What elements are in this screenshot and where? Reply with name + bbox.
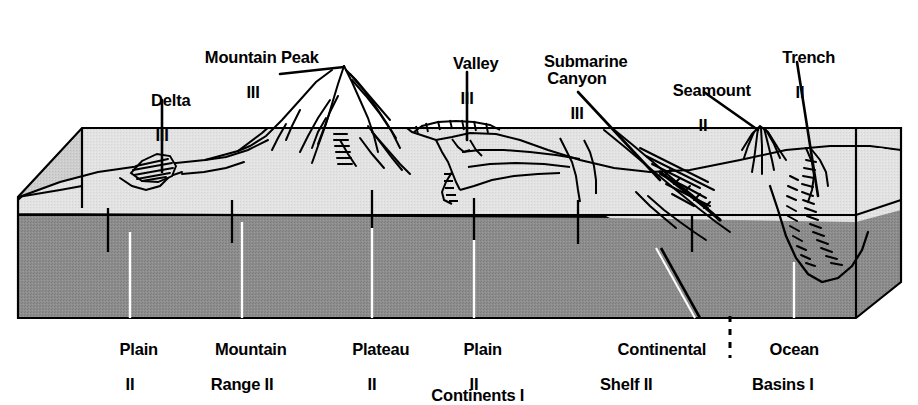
label-delta: Delta III [134,74,191,179]
label-valley-numeral: III [435,90,498,108]
label-plateau-line2: II [335,376,410,394]
label-plain-left: Plain II [102,323,158,405]
label-ocean-basins: Ocean Basins I [752,323,819,405]
label-mountain-peak-text: Mountain Peak [205,48,319,66]
label-plain-left-line1: Plain [120,340,158,358]
label-trench: Trench II [765,31,835,136]
label-mountain-peak: Mountain Peak III [187,31,318,136]
label-submarine-canyon-text: Submarine Canyon [544,52,627,88]
label-valley-text: Valley [453,54,499,72]
label-continental-shelf-line1: Continental [618,340,707,358]
label-valley: Valley III [435,37,498,142]
label-submarine-canyon: Submarine Canyon III [526,35,627,158]
label-continents-text: Continents I [431,386,524,404]
label-submarine-canyon-numeral: III [526,105,627,123]
label-delta-numeral: III [134,127,191,145]
label-trench-numeral: II [765,84,835,102]
label-ocean-basins-line2: Basins I [752,376,819,394]
diagram-canvas: Delta III Mountain Peak III Valley III S… [0,0,918,405]
label-plateau-line1: Plateau [352,340,409,358]
label-mountain-peak-numeral: III [187,84,318,102]
label-trench-text: Trench [782,48,835,66]
label-mountain-range-line1: Mountain [215,340,287,358]
label-seamount: Seamount II [655,64,751,169]
label-mountain-range: Mountain Range II [197,323,286,405]
label-mountain-range-line2: Range II [197,376,286,394]
label-delta-text: Delta [151,91,190,109]
label-continental-shelf-line2: Shelf II [600,376,706,394]
label-plain-right-line1: Plain [464,340,502,358]
label-seamount-text: Seamount [673,81,751,99]
label-plateau: Plateau II [335,323,410,405]
label-ocean-basins-line1: Ocean [770,340,819,358]
label-seamount-numeral: II [655,117,751,135]
label-plain-left-line2: II [102,376,158,394]
label-continents: Continents I [414,369,524,405]
label-continental-shelf: Continental Shelf II [600,323,706,405]
